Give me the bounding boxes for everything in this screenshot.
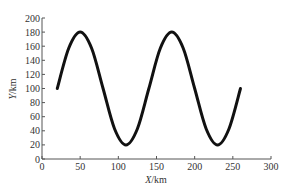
- x-tick-label: 300: [264, 161, 279, 172]
- x-tick-label: 0: [40, 161, 45, 172]
- y-tick-label: 140: [25, 55, 40, 66]
- y-tick-label: 160: [25, 41, 40, 52]
- y-tick-label: 20: [30, 139, 40, 150]
- x-tick-label: 150: [149, 161, 164, 172]
- y-tick-label: 40: [30, 125, 40, 136]
- y-axis-label: Y/km: [7, 78, 18, 99]
- x-tick-label: 200: [187, 161, 202, 172]
- plot-area: [57, 32, 240, 145]
- y-tick-label: 100: [25, 83, 40, 94]
- series-line: [57, 32, 240, 145]
- line-chart: 050100150200250300 020406080100120140160…: [0, 0, 295, 192]
- x-tick-label: 100: [111, 161, 126, 172]
- y-axis: 020406080100120140160180200: [25, 13, 45, 165]
- y-tick-label: 60: [30, 111, 40, 122]
- x-axis: 050100150200250300: [40, 156, 279, 172]
- x-axis-label: X/km: [144, 174, 167, 185]
- y-tick-label: 120: [25, 69, 40, 80]
- y-tick-label: 80: [30, 97, 40, 108]
- x-tick-label: 50: [75, 161, 85, 172]
- x-tick-label: 250: [225, 161, 240, 172]
- y-tick-label: 180: [25, 27, 40, 38]
- y-tick-label: 0: [35, 154, 40, 165]
- y-tick-label: 200: [25, 13, 40, 24]
